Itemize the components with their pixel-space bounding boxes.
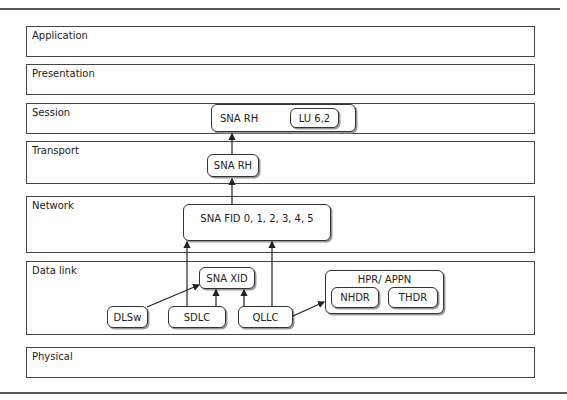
connector-arrows: [0, 0, 567, 400]
